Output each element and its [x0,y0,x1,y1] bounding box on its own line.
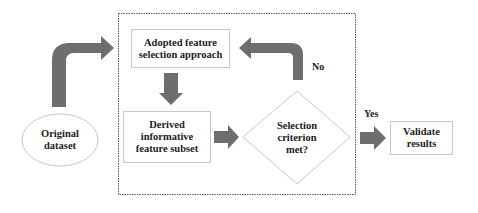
selection-criterion-line2: criterion [277,132,316,144]
arrow-no-loop-icon [239,37,303,80]
selection-criterion-label: Selection criterion met? [262,118,332,158]
original-dataset-line2: dataset [44,140,76,152]
yes-edge-label: Yes [364,108,378,119]
original-dataset-line1: Original [41,128,79,140]
original-dataset-label: Original dataset [22,126,98,154]
derived-subset-line1: Derived [149,119,185,131]
derived-subset-line3: feature subset [136,143,199,155]
adopted-approach-line2: selection approach [139,49,223,61]
arrow-original-to-adopted-icon [52,36,114,107]
adopted-approach-label: Adopted feature selection approach [131,29,230,68]
derived-subset-label: Derived informative feature subset [123,111,211,163]
validate-results-label: Validate results [390,121,453,155]
no-edge-label: No [312,61,324,72]
validate-results-line1: Validate [403,126,440,138]
selection-criterion-line3: met? [286,144,308,156]
flowchart-canvas [0,0,478,213]
selection-criterion-line1: Selection [277,120,317,132]
adopted-approach-line1: Adopted feature [144,37,217,49]
derived-subset-line2: informative [141,131,194,143]
arrow-adopted-to-derived-icon [159,73,183,105]
validate-results-line2: results [407,138,437,150]
arrow-yes-icon [360,126,386,150]
arrow-derived-to-criterion-icon [214,125,239,149]
